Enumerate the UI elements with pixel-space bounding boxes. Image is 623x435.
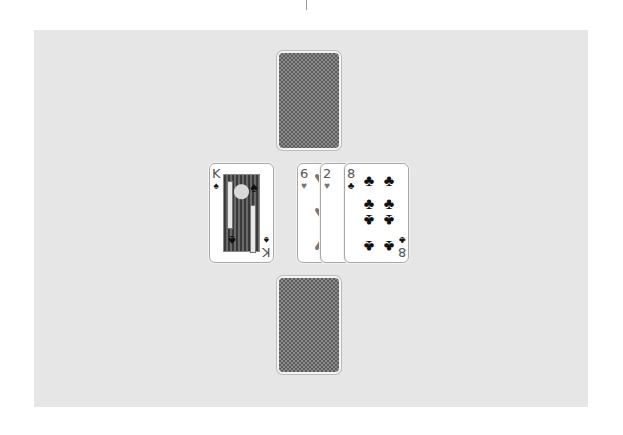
- spade-icon: ♠: [250, 180, 257, 194]
- heart-icon: ♥: [324, 181, 330, 191]
- card-corner-bottom: K ♠: [262, 235, 271, 259]
- card-corner-top: 8 ♣: [347, 167, 355, 191]
- club-icon: ♣: [384, 238, 395, 254]
- club-icon: ♣: [364, 196, 375, 212]
- top-card-back[interactable]: [277, 51, 341, 150]
- club-icon: ♣: [384, 212, 395, 228]
- king-of-spades-card[interactable]: ♠ ♠ K ♠ K ♠: [209, 163, 274, 263]
- top-divider-marker: [306, 0, 307, 10]
- card-rank: 8: [398, 246, 406, 259]
- card-rank: 6: [300, 167, 308, 180]
- eight-of-clubs-card[interactable]: 8 ♣ ♣ ♣ ♣ ♣ ♣ ♣ ♣ ♣ 8 ♣: [344, 163, 409, 263]
- club-icon: ♣: [399, 235, 406, 245]
- card-rank: 2: [323, 167, 331, 180]
- card-corner-top: 6 ♥: [300, 167, 308, 191]
- king-face-art-icon: ♠ ♠: [223, 174, 260, 252]
- club-icon: ♣: [364, 173, 375, 189]
- card-corner-bottom: 8 ♣: [398, 235, 406, 259]
- spade-icon: ♠: [264, 235, 269, 245]
- card-rank: 8: [347, 167, 355, 180]
- bottom-card-back[interactable]: [277, 276, 341, 374]
- club-icon: ♣: [384, 173, 395, 189]
- club-icon: ♣: [348, 181, 355, 191]
- spade-icon: ♠: [228, 234, 235, 248]
- club-icon: ♣: [364, 212, 375, 228]
- card-corner-top: K ♠: [212, 167, 221, 191]
- club-icon: ♣: [384, 196, 395, 212]
- game-window: ♠ ♠ K ♠ K ♠ 6 ♥ ♥ ♥ ♥ 2: [0, 0, 623, 435]
- heart-icon: ♥: [301, 181, 307, 191]
- card-table: ♠ ♠ K ♠ K ♠ 6 ♥ ♥ ♥ ♥ 2: [34, 30, 588, 407]
- spade-icon: ♠: [214, 181, 219, 191]
- club-icon: ♣: [364, 238, 375, 254]
- card-corner-top: 2 ♥: [323, 167, 331, 191]
- card-rank: K: [262, 246, 271, 259]
- card-rank: K: [212, 167, 221, 180]
